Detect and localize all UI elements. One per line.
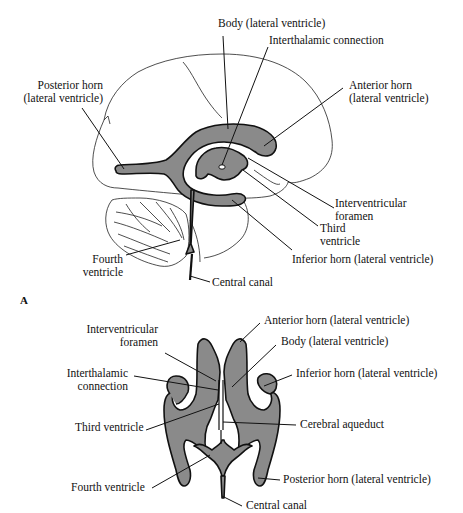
label-a-third-line2: ventricle: [320, 235, 360, 248]
midline-third-ventricle: [219, 380, 223, 444]
label-a-interventricular-foramen: Interventricular foramen: [335, 197, 407, 223]
label-b-central-canal: Central canal: [246, 499, 307, 512]
interthalamic-connection-mark: [219, 165, 225, 169]
label-b-posterior-horn: Posterior horn (lateral ventricle): [283, 473, 431, 486]
label-a-interthalamic-connection: Interthalamic connection: [269, 34, 384, 47]
label-b-third-ventricle: Third ventricle: [75, 421, 144, 434]
label-a-inferior-horn: Inferior horn (lateral ventricle): [292, 253, 433, 266]
label-b-interventricular-foramen: Interventricular foramen: [60, 323, 158, 349]
label-a-posterior-horn-line2: (lateral ventricle): [10, 92, 103, 105]
label-a-central-canal: Central canal: [212, 276, 273, 289]
label-b-interthalamic-line2: connection: [40, 380, 128, 393]
label-b-interventricular-line1: Interventricular: [60, 323, 158, 336]
label-a-third-ventricle: Third ventricle: [320, 222, 360, 248]
label-b-interthalamic-connection: Interthalamic connection: [40, 367, 128, 393]
panel-letter-a: A: [20, 294, 28, 306]
ventricles-lateral: [115, 124, 276, 280]
label-b-interventricular-line2: foramen: [60, 336, 158, 349]
label-b-cerebral-aqueduct: Cerebral aqueduct: [300, 418, 384, 431]
label-a-posterior-horn-line1: Posterior horn: [10, 79, 103, 92]
ventricles-dorsal: [164, 339, 280, 498]
label-b-body: Body (lateral ventricle): [281, 335, 388, 348]
label-a-body: Body (lateral ventricle): [218, 17, 325, 30]
label-a-anterior-horn-line1: Anterior horn: [349, 79, 429, 92]
label-a-anterior-horn: Anterior horn (lateral ventricle): [349, 79, 429, 105]
label-a-posterior-horn: Posterior horn (lateral ventricle): [10, 79, 103, 105]
label-b-interthalamic-line1: Interthalamic: [40, 367, 128, 380]
ventricular-system-figure: Body (lateral ventricle) Interthalamic c…: [0, 0, 463, 513]
label-a-fourth-line2: ventricle: [60, 266, 123, 279]
label-a-fourth-line1: Fourth: [60, 253, 123, 266]
label-a-interventricular-line1: Interventricular: [335, 197, 407, 210]
label-b-fourth-ventricle: Fourth ventricle: [71, 481, 145, 494]
label-a-anterior-horn-line2: (lateral ventricle): [349, 92, 429, 105]
label-b-inferior-horn: Inferior horn (lateral ventricle): [296, 367, 437, 380]
label-a-fourth-ventricle: Fourth ventricle: [60, 253, 123, 279]
label-a-third-line1: Third: [320, 222, 360, 235]
label-b-anterior-horn: Anterior horn (lateral ventricle): [264, 314, 409, 327]
